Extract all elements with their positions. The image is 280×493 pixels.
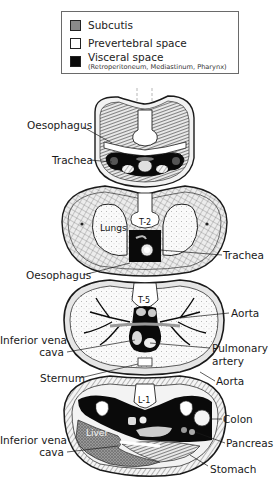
pulmonary-artery-label-line2: artery xyxy=(212,355,244,367)
aorta-label-abdomen: Aorta xyxy=(216,375,244,387)
vertebra-l1-label: L-1 xyxy=(138,396,150,406)
liver-label: Liver xyxy=(86,428,108,438)
inferior-vena-cava-label-l1-line2: cava xyxy=(0,446,64,458)
aorta-label-t5: Aorta xyxy=(231,307,259,319)
inferior-vena-cava-label-t5-line2: cava xyxy=(0,346,64,358)
colon-label: Colon xyxy=(223,413,253,425)
sternum-label: Sternum xyxy=(40,372,85,384)
oesophagus-label-neck: Oesophagus xyxy=(27,119,92,131)
thorax-t2-section xyxy=(62,186,227,276)
lungs-label: Lungs xyxy=(100,223,127,233)
thorax-t5-section xyxy=(64,280,224,375)
trachea-label-neck: Trachea xyxy=(52,154,93,166)
abdomen-l1-section xyxy=(64,376,226,476)
pulmonary-artery-label: Pulmonary xyxy=(212,342,268,354)
vertebra-t2-label: T-2 xyxy=(139,218,151,228)
inferior-vena-cava-label-l1: Inferior vena xyxy=(0,434,64,446)
pancreas-label: Pancreas xyxy=(226,437,273,449)
trachea-label-thorax: Trachea xyxy=(223,249,264,261)
stomach-label: Stomach xyxy=(210,463,256,475)
inferior-vena-cava-label-t5: Inferior vena xyxy=(0,334,64,346)
vertebra-t5-label: T-5 xyxy=(138,296,150,306)
oesophagus-label-thorax: Oesophagus xyxy=(26,269,91,281)
